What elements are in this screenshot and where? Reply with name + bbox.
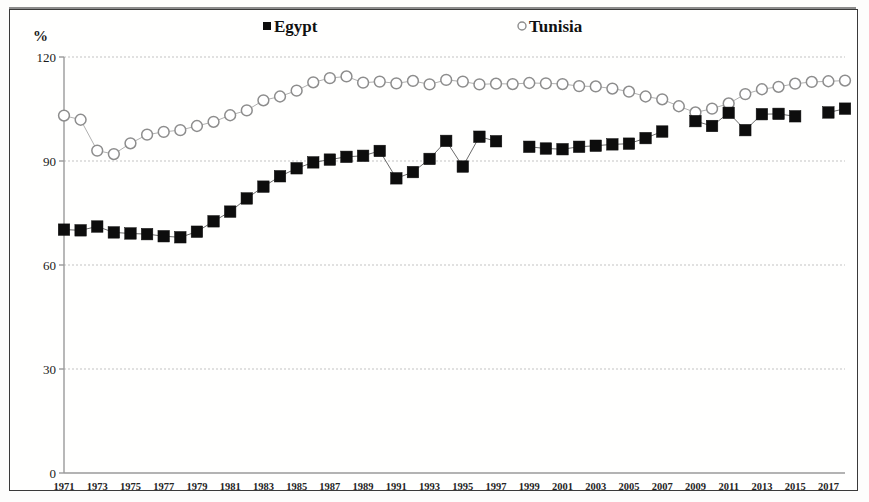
x-tick-label: 1993	[419, 481, 440, 492]
x-tick-label: 2005	[618, 481, 639, 492]
x-tick-label: 1989	[353, 481, 374, 492]
x-tick-label: 2009	[685, 481, 706, 492]
y-axis-unit-label: %	[33, 28, 48, 44]
x-tick-label: 1999	[519, 481, 540, 492]
x-tick-label: 2007	[652, 481, 673, 492]
data-point-marker	[91, 221, 103, 233]
data-point-marker	[108, 149, 119, 160]
data-point-marker	[507, 79, 518, 90]
data-point-marker	[407, 166, 419, 178]
chart-page: 0306090120 19711973197519771979198119831…	[0, 0, 869, 502]
data-point-marker	[191, 226, 203, 238]
data-point-marker	[723, 107, 735, 119]
data-point-marker	[457, 161, 469, 173]
data-point-marker	[557, 143, 569, 155]
data-point-marker	[374, 145, 386, 157]
y-tick-label: 30	[43, 362, 56, 377]
x-tick-label: 1985	[286, 481, 307, 492]
data-point-marker	[125, 138, 136, 149]
y-tick-label: 60	[43, 258, 56, 273]
data-point-marker	[574, 81, 585, 92]
legend-marker-tunisia	[518, 22, 526, 30]
data-point-marker	[740, 124, 752, 136]
y-tick-label: 90	[43, 154, 56, 169]
chart-legend: EgyptTunisia	[263, 17, 583, 36]
data-point-marker	[92, 145, 103, 156]
data-point-marker	[175, 232, 187, 244]
data-point-marker	[424, 153, 436, 165]
data-point-marker	[59, 110, 70, 121]
data-point-marker	[108, 227, 120, 239]
y-tick-label: 0	[50, 466, 57, 481]
data-point-marker	[490, 135, 502, 147]
x-tick-labels-group: 1971197319751977197919811983198519871989…	[54, 481, 839, 492]
series-egypt	[58, 103, 851, 243]
data-point-marker	[274, 171, 286, 183]
series-line	[64, 137, 496, 238]
data-point-marker	[840, 75, 851, 86]
x-tick-label: 1981	[220, 481, 241, 492]
line-chart: 0306090120 19711973197519771979198119831…	[0, 0, 869, 502]
x-tick-label: 2015	[785, 481, 806, 492]
data-point-marker	[806, 77, 817, 88]
chart-plot-area: 0306090120 19711973197519771979198119831…	[0, 0, 869, 502]
x-tick-label: 2017	[818, 481, 839, 492]
data-point-marker	[773, 81, 784, 92]
x-tick-label: 1983	[253, 481, 274, 492]
data-point-marker	[756, 108, 768, 120]
data-point-marker	[640, 132, 652, 144]
data-point-marker	[358, 77, 369, 88]
data-point-marker	[357, 150, 369, 162]
data-point-marker	[224, 206, 236, 218]
data-point-marker	[175, 125, 186, 136]
data-point-marker	[208, 116, 219, 127]
data-point-marker	[291, 163, 303, 175]
data-point-marker	[324, 154, 336, 166]
data-point-marker	[308, 157, 320, 169]
data-point-marker	[141, 228, 153, 240]
data-point-marker	[789, 111, 801, 123]
data-point-marker	[823, 76, 834, 87]
x-tick-label: 1991	[386, 481, 407, 492]
data-point-marker	[474, 131, 486, 143]
data-point-marker	[158, 126, 169, 137]
data-point-marker	[823, 107, 835, 119]
data-point-marker	[192, 121, 203, 132]
data-point-marker	[623, 138, 635, 150]
legend-label: Egypt	[274, 17, 318, 36]
data-point-marker	[341, 71, 352, 82]
data-point-marker	[640, 91, 651, 102]
data-point-marker	[590, 81, 601, 92]
x-tick-label: 2003	[585, 481, 606, 492]
data-point-marker	[474, 79, 485, 90]
data-point-marker	[142, 129, 153, 140]
data-point-marker	[624, 86, 635, 97]
data-point-marker	[408, 76, 419, 87]
data-point-marker	[590, 140, 602, 152]
data-point-marker	[540, 78, 551, 89]
data-point-marker	[441, 74, 452, 85]
data-point-marker	[524, 78, 535, 89]
data-point-marker	[75, 225, 87, 237]
data-point-marker	[757, 84, 768, 95]
x-tick-label: 1973	[87, 481, 108, 492]
data-point-marker	[258, 181, 270, 193]
x-tick-label: 1987	[319, 481, 340, 492]
data-point-marker	[790, 78, 801, 89]
data-point-marker	[241, 105, 252, 116]
data-point-marker	[607, 83, 618, 94]
data-point-marker	[225, 110, 236, 121]
data-point-marker	[524, 141, 536, 153]
data-point-marker	[656, 126, 668, 137]
data-point-marker	[740, 89, 751, 100]
data-point-marker	[391, 78, 402, 89]
x-tick-label: 2013	[751, 481, 772, 492]
data-point-marker	[673, 101, 684, 112]
data-point-marker	[291, 85, 302, 96]
x-tick-label: 1977	[153, 481, 174, 492]
data-point-marker	[607, 139, 619, 151]
data-point-marker	[374, 76, 385, 87]
y-tick-labels-group: 0306090120	[37, 50, 57, 481]
data-point-marker	[440, 135, 452, 147]
x-tick-label: 2011	[718, 481, 738, 492]
